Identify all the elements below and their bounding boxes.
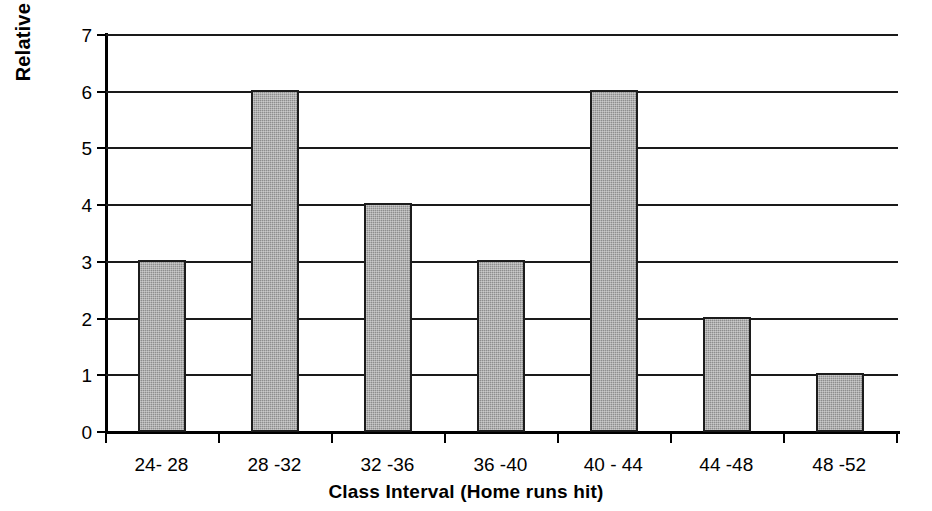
y-tick-label: 3 xyxy=(81,252,92,271)
x-tick-label: 48 -52 xyxy=(812,455,866,474)
x-tick-label: 44 -48 xyxy=(699,455,753,474)
bar xyxy=(703,317,751,432)
x-tick-label: 28 -32 xyxy=(248,455,302,474)
y-axis-title: Relative Frequency in % xyxy=(6,0,40,114)
bar-chart: Relative Frequency in % 01234567 24- 282… xyxy=(0,0,932,511)
x-tick-mark xyxy=(444,433,446,443)
x-tick-mark xyxy=(218,433,220,443)
y-tick-label: 7 xyxy=(81,26,92,45)
bar xyxy=(138,260,186,432)
bars xyxy=(105,35,898,432)
y-tick-label: 6 xyxy=(81,82,92,101)
x-tick-label: 36 -40 xyxy=(473,455,527,474)
x-tick-label: 24- 28 xyxy=(135,455,189,474)
bar xyxy=(477,260,525,432)
plot-area: 01234567 xyxy=(105,35,898,432)
x-tick-label: 40 - 44 xyxy=(584,455,643,474)
x-axis-title: Class Interval (Home runs hit) xyxy=(0,481,932,503)
y-tick-label: 0 xyxy=(81,423,92,442)
y-tick-label: 1 xyxy=(81,366,92,385)
bar xyxy=(816,373,864,432)
x-tick-mark xyxy=(783,433,785,443)
y-tick-label: 5 xyxy=(81,139,92,158)
x-tick-mark xyxy=(896,433,898,443)
x-tick-mark xyxy=(670,433,672,443)
bar xyxy=(590,90,638,432)
x-tick-mark xyxy=(105,433,107,443)
x-tick-label: 32 -36 xyxy=(360,455,414,474)
x-tick-mark xyxy=(331,433,333,443)
y-tick-label: 2 xyxy=(81,309,92,328)
bar xyxy=(251,90,299,432)
bar xyxy=(364,203,412,432)
y-tick-label: 4 xyxy=(81,196,92,215)
x-tick-mark xyxy=(557,433,559,443)
